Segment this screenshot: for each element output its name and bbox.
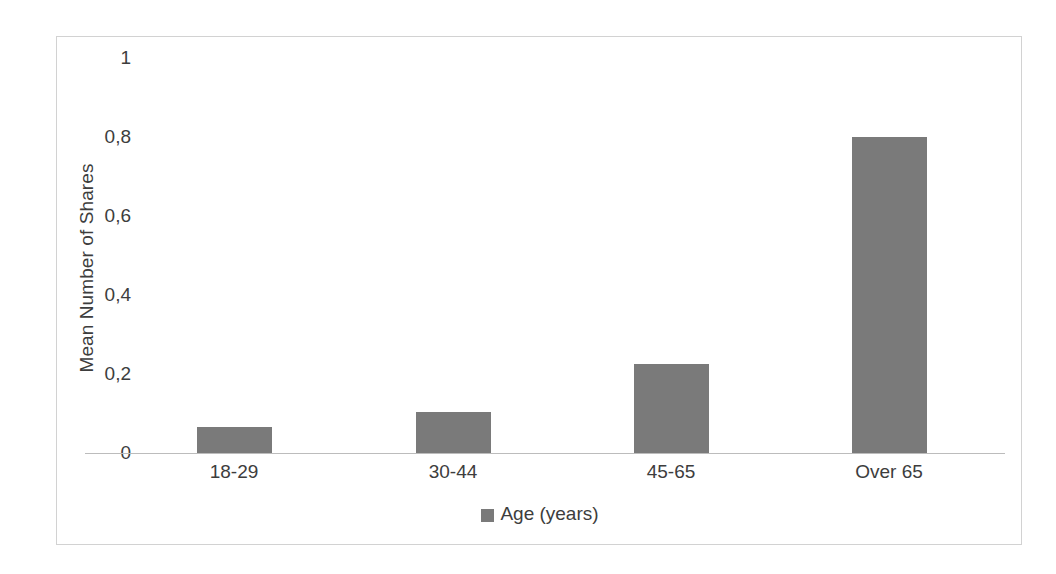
- legend-swatch-icon: [481, 509, 494, 522]
- bar-chart: Mean Number of Shares 00,20,40,60,81 18-…: [0, 0, 1056, 574]
- bar-over-65: [852, 137, 927, 453]
- x-axis-tick-label: 18-29: [210, 461, 259, 483]
- x-axis-tick-label: 30-44: [429, 461, 478, 483]
- chart-legend: Age (years): [57, 503, 1023, 525]
- chart-plot-frame: Mean Number of Shares 00,20,40,60,81 18-…: [56, 36, 1022, 545]
- x-axis-tick-label: 45-65: [647, 461, 696, 483]
- x-axis-tick-label: Over 65: [855, 461, 923, 483]
- bar-18-29: [197, 427, 272, 453]
- plot-area: 00,20,40,60,81 18-2930-4445-65Over 65 Ag…: [57, 37, 1023, 546]
- legend-label: Age (years): [500, 503, 598, 525]
- bar-30-44: [416, 412, 491, 453]
- bar-45-65: [634, 364, 709, 453]
- x-axis-tick-labels: 18-2930-4445-65Over 65: [57, 461, 1023, 495]
